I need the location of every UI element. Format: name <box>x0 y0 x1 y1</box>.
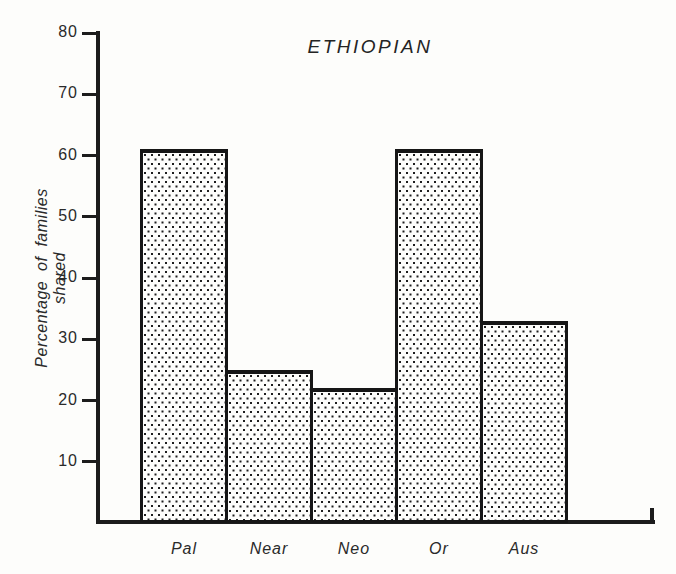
x-category-label-or: Or <box>397 540 481 558</box>
x-category-label-neo: Neo <box>312 540 396 558</box>
chart-title: ETHIOPIAN <box>250 36 490 58</box>
bar-near <box>225 370 313 523</box>
y-tick-label-40: 40 <box>34 268 78 288</box>
x-category-label-pal: Pal <box>142 540 226 558</box>
y-tick-60 <box>82 154 99 157</box>
y-tick-20 <box>82 399 99 402</box>
y-tick-80 <box>82 32 99 35</box>
x-category-label-aus: Aus <box>482 540 566 558</box>
bar-or <box>395 149 483 523</box>
bar-pal <box>140 149 228 523</box>
y-tick-label-70: 70 <box>34 84 78 104</box>
x-category-label-near: Near <box>227 540 311 558</box>
y-tick-label-30: 30 <box>34 329 78 349</box>
y-tick-30 <box>82 338 99 341</box>
y-tick-label-80: 80 <box>34 23 78 43</box>
y-tick-label-50: 50 <box>34 207 78 227</box>
y-tick-70 <box>82 93 99 96</box>
x-axis-end-tick <box>650 508 654 522</box>
y-tick-40 <box>82 277 99 280</box>
y-tick-label-10: 10 <box>34 452 78 472</box>
chart-canvas: ETHIOPIAN Percentage of families shared … <box>0 0 676 574</box>
y-tick-label-60: 60 <box>34 146 78 166</box>
bar-neo <box>310 388 398 523</box>
y-tick-label-20: 20 <box>34 391 78 411</box>
bar-aus <box>480 321 568 523</box>
y-tick-10 <box>82 460 99 463</box>
y-tick-50 <box>82 215 99 218</box>
